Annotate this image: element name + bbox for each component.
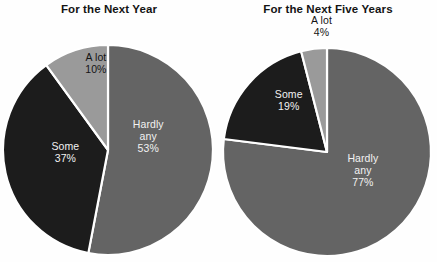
- slice-label-value: 53%: [133, 142, 164, 154]
- slice-label-value: 77%: [347, 176, 378, 188]
- slice-label-name: A lot: [311, 14, 332, 26]
- slice-label-hardly-any: Hardlyany77%: [347, 152, 378, 188]
- slice-label-name: Some: [275, 88, 303, 100]
- slice-label-value: 37%: [51, 152, 79, 164]
- pie-right: Hardlyany77%Some19%A lot4%: [219, 0, 437, 262]
- slice-label-name: Hardly: [133, 118, 164, 130]
- slice-label-some: Some37%: [51, 140, 79, 164]
- slice-label-name: Some: [51, 140, 79, 152]
- pie-svg: [219, 0, 437, 262]
- pie-chart-figure: For the Next Year Hardlyany53%Some37%A l…: [0, 0, 437, 262]
- slice-label-name: A lot: [85, 51, 106, 63]
- slice-label-name-cont: any: [347, 164, 378, 176]
- slice-label-name-cont: any: [133, 130, 164, 142]
- slice-label-value: 4%: [311, 26, 332, 38]
- pie-svg: [0, 0, 218, 262]
- slice-label-value: 10%: [85, 63, 106, 75]
- chart-panel-next-five-years: For the Next Five Years Hardlyany77%Some…: [219, 0, 437, 262]
- chart-panel-next-year: For the Next Year Hardlyany53%Some37%A l…: [0, 0, 218, 262]
- slice-label-a-lot: A lot4%: [311, 14, 332, 38]
- slice-label-hardly-any: Hardlyany53%: [133, 118, 164, 154]
- slice-label-some: Some19%: [275, 88, 303, 112]
- slice-label-value: 19%: [275, 100, 303, 112]
- slice-label-a-lot: A lot10%: [85, 51, 106, 75]
- slice-label-name: Hardly: [347, 152, 378, 164]
- pie-left: Hardlyany53%Some37%A lot10%: [0, 0, 218, 262]
